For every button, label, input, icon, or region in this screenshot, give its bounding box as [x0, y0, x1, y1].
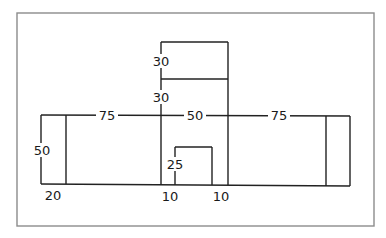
label-notch-left-offset: 10 [162, 189, 179, 204]
label-top-right-span: 75 [271, 108, 288, 123]
label-notch-right-offset: 10 [213, 189, 230, 204]
diagram-canvas: 75 50 75 50 20 30 30 25 10 10 [0, 0, 386, 238]
bottom-edge [41, 184, 350, 186]
label-inner-notch-height: 25 [167, 157, 184, 172]
main-body [41, 115, 350, 186]
label-left-height: 50 [34, 143, 51, 158]
dimension-diagram: 75 50 75 50 20 30 30 25 10 10 [0, 0, 386, 238]
label-left-width: 20 [45, 188, 62, 203]
label-top-middle-span: 50 [187, 108, 204, 123]
label-tower-upper-height: 30 [153, 54, 170, 69]
label-tower-lower-height: 30 [153, 90, 170, 105]
label-top-left-span: 75 [99, 108, 116, 123]
